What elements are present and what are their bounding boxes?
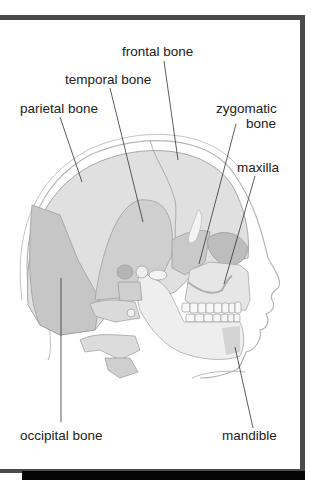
skull-illustration — [0, 0, 311, 480]
label-parietal-bone: parietal bone — [20, 101, 98, 116]
upper-teeth — [182, 302, 241, 313]
label-occipital-bone: occipital bone — [20, 428, 103, 443]
label-zygomatic-line1: zygomatic — [216, 101, 277, 116]
label-zygomatic-line2: bone — [246, 116, 276, 131]
leader-mandible — [235, 347, 253, 428]
lower-teeth — [186, 314, 240, 322]
label-maxilla: maxilla — [237, 160, 279, 175]
leader-parietal — [60, 117, 82, 182]
leader-frontal — [164, 61, 178, 160]
label-frontal-bone: frontal bone — [122, 44, 193, 59]
label-temporal-bone: temporal bone — [65, 72, 151, 87]
label-mandible: mandible — [222, 428, 277, 443]
